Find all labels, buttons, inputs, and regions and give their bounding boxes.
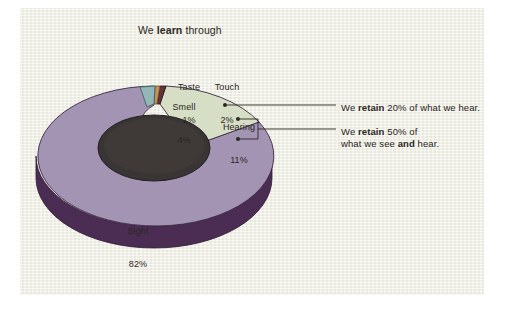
slice-label-sight-name: Sight <box>117 226 159 237</box>
annotation-see-part-2: 50% of <box>385 126 418 137</box>
paper-page: We learn throughWe learn through Taste 1… <box>20 8 484 295</box>
slice-label-smell-value: 4% <box>167 135 201 146</box>
annotation-see-part-1: We <box>341 126 358 137</box>
slice-label-hearing-name: Hearing <box>216 122 262 133</box>
annotation-hear-part-2: 20% of what we hear. <box>385 102 481 113</box>
page-title: We learn throughWe learn through <box>138 24 222 37</box>
slice-label-hearing-value: 11% <box>216 155 262 166</box>
annotation-see-emphasis-1: retain <box>358 126 384 137</box>
slice-label-sight-value: 82% <box>117 259 159 270</box>
annotation-see-part-4: hear. <box>415 138 439 149</box>
title-part-2: through <box>182 24 221 36</box>
annotation-retain-hear: We retain 20% of what we hear. <box>341 102 480 114</box>
annotation-retain-see-and-hear: We retain 50% ofwhat we see and hear. <box>341 126 439 149</box>
title-emphasis: learn <box>157 24 183 36</box>
slice-label-smell: Smell 4% <box>167 80 201 168</box>
annotation-see-emphasis-2: and <box>398 138 415 149</box>
slice-label-smell-name: Smell <box>167 102 201 113</box>
annotation-see-line2: what we see and hear. <box>341 138 439 149</box>
slice-label-hearing: Hearing 11% <box>216 100 262 188</box>
figure-canvas: We learn throughWe learn through Taste 1… <box>0 0 506 315</box>
annotation-see-part-3: what we see <box>341 138 398 149</box>
slice-label-sight: Sight 82% <box>117 204 159 292</box>
annotation-hear-part-1: We <box>341 102 358 113</box>
annotation-hear-emphasis: retain <box>358 102 384 113</box>
title-part-1: We <box>138 24 157 36</box>
slice-label-touch-name: Touch <box>209 82 245 93</box>
annotation-see-line1: We retain 50% of <box>341 126 417 137</box>
